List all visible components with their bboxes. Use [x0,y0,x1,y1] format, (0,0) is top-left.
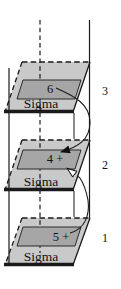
diagram-canvas: 6 4 + 5 + Sigma Sigma Sigma 3 2 1 [0,0,121,289]
layer-number-1: 1 [102,231,108,245]
sigma-label-layer-1: Sigma [24,249,59,264]
value-layer-3: 6 [47,82,53,96]
inner-box-layer-1 [17,227,81,246]
layer-number-2: 2 [102,158,108,172]
sigma-label-layer-2: Sigma [24,174,59,189]
sigma-planes-figure: 6 4 + 5 + Sigma Sigma Sigma 3 2 1 [0,0,121,289]
value-layer-2: 4 + [47,152,63,166]
sigma-label-layer-3: Sigma [24,96,59,111]
value-layer-1: 5 + [53,230,69,244]
layer-number-3: 3 [102,84,108,98]
